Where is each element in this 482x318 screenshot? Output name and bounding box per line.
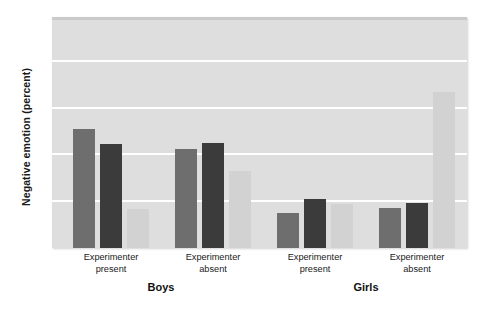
bar: [175, 149, 197, 248]
x-tick-line-1: Experimenter: [154, 252, 272, 264]
plot-top-band: [52, 17, 467, 20]
x-tick-label-group-1: Experimenter present: [52, 252, 170, 275]
bar: [73, 129, 95, 248]
x-tick-line-2: absent: [154, 264, 272, 276]
plot-area: [52, 17, 467, 248]
x-tick-label-group-3: Experimenter present: [256, 252, 374, 275]
bar: [229, 171, 251, 248]
x-tick-label-group-2: Experimenter absent: [154, 252, 272, 275]
bar: [202, 143, 224, 248]
x-tick-label-group-4: Experimenter absent: [358, 252, 476, 275]
panel-label-boys: Boys: [61, 281, 261, 293]
bar: [379, 208, 401, 248]
bar: [406, 203, 428, 248]
x-tick-line-1: Experimenter: [256, 252, 374, 264]
bar: [127, 209, 149, 248]
y-axis-title: Negative emotion (percent): [20, 27, 32, 247]
gridline-30: [52, 107, 467, 109]
bar-chart-figure: Negative emotion (percent) 40 30 20 10 E…: [0, 0, 482, 318]
x-tick-line-2: absent: [358, 264, 476, 276]
bar: [433, 92, 455, 248]
bar: [100, 144, 122, 248]
x-tick-line-2: present: [52, 264, 170, 276]
x-tick-line-2: present: [256, 264, 374, 276]
x-tick-line-1: Experimenter: [358, 252, 476, 264]
panel-label-girls: Girls: [266, 281, 466, 293]
x-tick-line-1: Experimenter: [52, 252, 170, 264]
bar: [331, 204, 353, 248]
bar: [304, 199, 326, 248]
bar: [277, 213, 299, 248]
gridline-40: [52, 60, 467, 62]
